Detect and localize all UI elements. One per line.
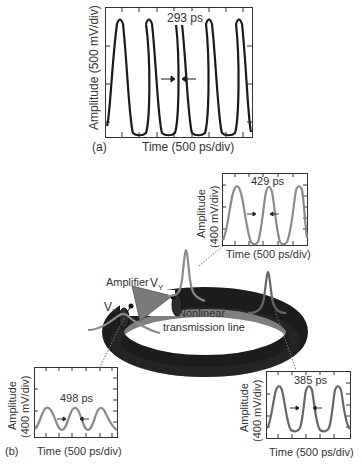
- inset-tr-ylabel-2: (400 mV/div): [208, 186, 220, 248]
- inset-br-annotation: 385 ps: [294, 374, 327, 386]
- inset-tr-xlabel: Time (500 ps/div): [226, 248, 311, 260]
- line-label-2: transmission line: [163, 321, 245, 333]
- inset-br-ylabel-1: Amplitude: [238, 383, 250, 432]
- vx-label: VX: [104, 300, 117, 316]
- inset-bl-annotation: 498 ps: [60, 392, 93, 404]
- line-label-1: Nonlinear: [178, 307, 225, 319]
- inset-br-ylabel-2: (400 mV/div): [251, 380, 263, 442]
- vy-label: VY: [150, 276, 163, 292]
- inset-bl-xlabel: Time (500 ps/div): [37, 445, 122, 457]
- inset-bl-ylabel-1: Amplitude: [6, 381, 18, 430]
- panel-b-label: (b): [5, 445, 18, 457]
- inset-bl-ylabel-2: (400 mV/div): [19, 376, 31, 438]
- panel-a-plot: [105, 7, 253, 138]
- panel-a-ylabel: Amplitude (500 mV/div): [87, 5, 101, 130]
- figure-graphics: [0, 0, 362, 471]
- inset-tr-ylabel-1: Amplitude: [195, 189, 207, 238]
- panel-a-label: (a): [92, 140, 107, 154]
- panel-a-annotation: 293 ps: [166, 11, 204, 25]
- panel-a-waveform: [107, 20, 251, 136]
- panel-a-xlabel: Time (500 ps/div): [142, 140, 234, 154]
- inset-br-xlabel: Time (500 ps/div): [269, 446, 354, 458]
- inset-tr-annotation: 429 ps: [251, 175, 284, 187]
- amplifier-label: Amplifier: [106, 276, 149, 288]
